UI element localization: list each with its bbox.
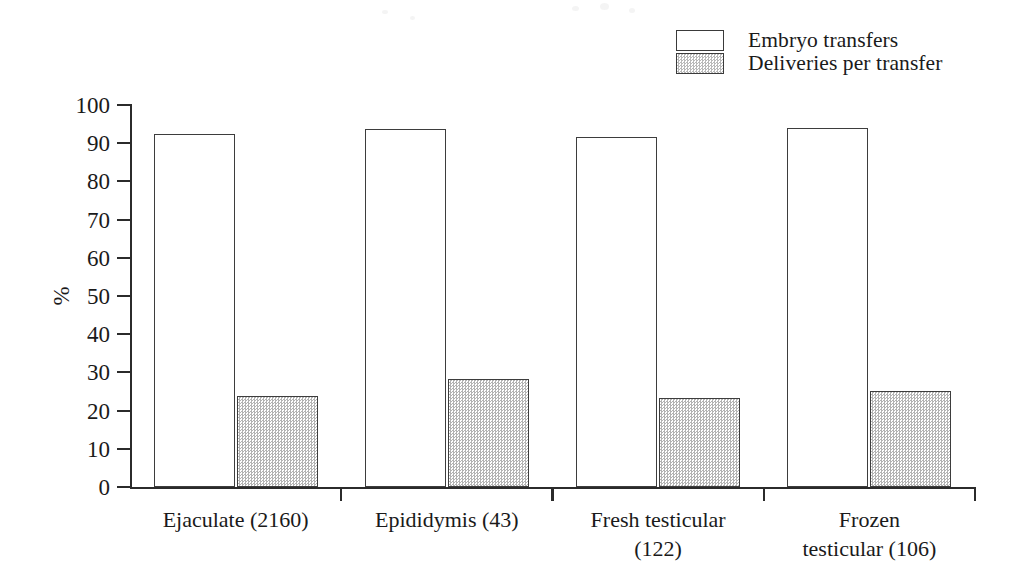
legend-item-deliveries-per-transfer: Deliveries per transfer: [676, 52, 1006, 75]
bar-deliveries-per-transfer: [448, 379, 529, 487]
y-axis-tick-label: 20: [87, 399, 110, 422]
y-axis-tick-label: 50: [87, 285, 110, 308]
bar-deliveries-per-transfer: [870, 391, 951, 487]
y-axis-tick-label: 100: [76, 94, 111, 117]
y-axis-tick-label: 40: [87, 323, 110, 346]
scan-artifact: [410, 16, 415, 20]
y-axis-tick: [117, 448, 130, 450]
legend-label-deliveries-per-transfer: Deliveries per transfer: [748, 52, 943, 75]
y-axis-tick: [117, 180, 130, 182]
y-axis-tick: [117, 333, 130, 335]
y-axis-line: [130, 104, 132, 488]
bar-deliveries-per-transfer: [659, 398, 740, 487]
scan-artifact: [629, 8, 635, 13]
y-axis-tick: [117, 104, 130, 106]
y-axis-tick: [117, 371, 130, 373]
y-axis-tick-label: 10: [87, 437, 110, 460]
chart-legend: Embryo transfers Deliveries per transfer: [676, 29, 1006, 75]
y-axis-tick-label: 0: [99, 476, 111, 499]
y-axis-tick: [117, 257, 130, 259]
scan-artifact: [572, 6, 579, 11]
y-axis-tick-label: 60: [87, 246, 110, 269]
y-axis-tick: [117, 295, 130, 297]
x-axis-category-label: Ejaculate (2160): [130, 505, 341, 534]
x-axis-category-label: Frozen testicular (106): [764, 505, 975, 563]
y-axis-tick: [117, 486, 130, 488]
scan-artifact: [382, 10, 388, 14]
bar-embryo-transfers: [787, 128, 868, 487]
plot-area: % 0102030405060708090100 Ejaculate (2160…: [130, 105, 975, 487]
bar-deliveries-per-transfer: [237, 396, 318, 487]
scan-artifact: [600, 3, 609, 10]
y-axis-title: %: [50, 286, 73, 305]
y-axis-tick-label: 70: [87, 208, 110, 231]
y-axis-tick: [117, 142, 130, 144]
bar-embryo-transfers: [576, 137, 657, 487]
x-axis-tick: [974, 487, 976, 501]
x-axis-tick: [551, 487, 553, 501]
bar-embryo-transfers: [365, 129, 446, 487]
x-axis-tick: [763, 487, 765, 501]
y-axis-tick: [117, 410, 130, 412]
legend-item-embryo-transfers: Embryo transfers: [676, 29, 1006, 52]
legend-swatch-deliveries-per-transfer: [676, 53, 724, 74]
y-axis-tick-label: 30: [87, 361, 110, 384]
legend-swatch-embryo-transfers: [676, 30, 724, 51]
y-axis-tick-label: 80: [87, 170, 110, 193]
y-axis-tick: [117, 219, 130, 221]
x-axis-category-label: Fresh testicular (122): [553, 505, 764, 563]
bar-embryo-transfers: [154, 134, 235, 487]
x-axis-tick: [340, 487, 342, 501]
x-axis-category-label: Epididymis (43): [341, 505, 552, 534]
bar-chart-figure: Embryo transfers Deliveries per transfer…: [0, 0, 1023, 571]
y-axis-tick-label: 90: [87, 132, 110, 155]
legend-label-embryo-transfers: Embryo transfers: [748, 29, 898, 52]
